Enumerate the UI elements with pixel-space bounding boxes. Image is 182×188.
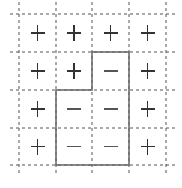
minus-icon [101,137,121,157]
plus-icon [28,99,48,119]
minus-icon [101,61,121,81]
plus-icon [64,61,84,81]
plus-icon [101,23,121,43]
plus-icon [138,61,158,81]
sign-grid-diagram [0,0,182,188]
plus-icon [64,23,84,43]
plus-icon [138,23,158,43]
plus-icon [28,137,48,157]
minus-icon [64,137,84,157]
plus-icon [138,99,158,119]
minus-icon [64,99,84,119]
plus-icon [28,23,48,43]
plus-icon [138,137,158,157]
plus-icon [28,61,48,81]
minus-icon [101,99,121,119]
